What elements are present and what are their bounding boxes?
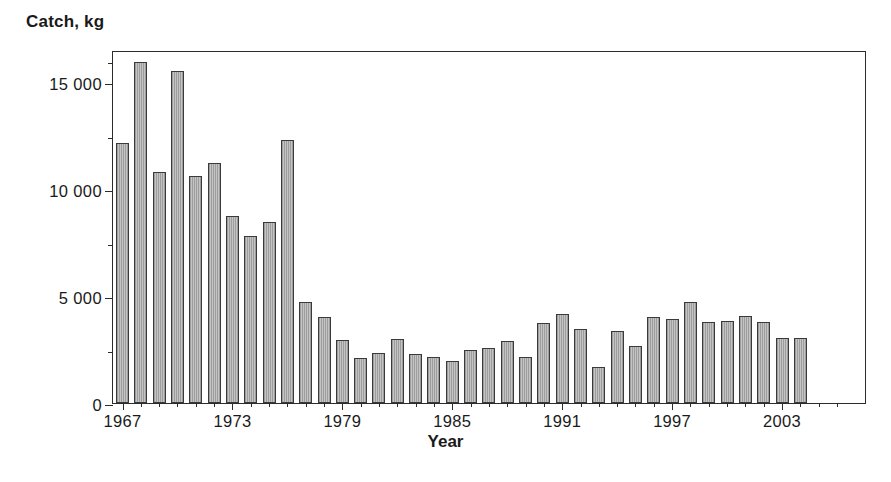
y-tick-minor-16000: [108, 63, 113, 64]
x-tick-label-1979: 1979: [323, 412, 361, 431]
x-tick-1991: [562, 403, 563, 410]
x-tick-2005: [819, 403, 820, 407]
bar-1987: [482, 348, 495, 403]
bar-1986: [464, 350, 477, 403]
x-tick-2003: [782, 403, 783, 410]
bar-1973: [226, 216, 239, 403]
bar-2002: [757, 322, 770, 403]
x-tick-1986: [471, 403, 472, 407]
x-tick-2004: [800, 403, 801, 407]
bar-1990: [537, 323, 550, 403]
bar-1978: [318, 317, 331, 403]
x-tick-1968: [141, 403, 142, 407]
bar-1974: [244, 236, 257, 403]
x-tick-1996: [654, 403, 655, 407]
x-tick-2002: [764, 403, 765, 407]
bar-2003: [776, 338, 789, 403]
x-tick-1990: [544, 403, 545, 407]
x-tick-label-1973: 1973: [213, 412, 251, 431]
x-tick-1976: [287, 403, 288, 407]
x-tick-1994: [617, 403, 618, 407]
bar-1970: [171, 71, 184, 403]
bar-1997: [666, 319, 679, 404]
bar-1999: [702, 322, 715, 403]
bar-1998: [684, 302, 697, 403]
x-tick-1984: [434, 403, 435, 407]
x-tick-1977: [306, 403, 307, 407]
x-tick-1967: [123, 403, 124, 410]
y-tick-15000: [105, 84, 113, 85]
bar-1976: [281, 140, 294, 403]
bar-1996: [647, 317, 660, 403]
y-axis-title: Catch, kg: [26, 12, 104, 32]
x-tick-label-1985: 1985: [433, 412, 471, 431]
bar-1981: [372, 353, 385, 403]
x-tick-1989: [526, 403, 527, 407]
x-tick-1981: [379, 403, 380, 407]
x-tick-label-1991: 1991: [543, 412, 581, 431]
bar-1972: [208, 163, 221, 403]
x-tick-1988: [507, 403, 508, 407]
bar-1985: [446, 361, 459, 403]
x-tick-1995: [635, 403, 636, 407]
x-tick-1987: [489, 403, 490, 407]
bar-1982: [391, 339, 404, 403]
bar-2000: [721, 321, 734, 403]
x-tick-1997: [672, 403, 673, 410]
x-tick-1985: [452, 403, 453, 410]
y-tick-10000: [105, 191, 113, 192]
x-tick-label-2003: 2003: [763, 412, 801, 431]
bar-1993: [592, 367, 605, 403]
x-tick-1969: [159, 403, 160, 407]
x-tick-1973: [232, 403, 233, 410]
y-tick-label-15000: 15 000: [49, 75, 102, 94]
bar-1983: [409, 354, 422, 403]
catch-bar-chart-figure: Catch, kg 05 00010 00015 000 19671973197…: [0, 0, 891, 482]
plot-area: 05 00010 00015 000 196719731979198519911…: [112, 51, 866, 404]
x-tick-1970: [177, 403, 178, 407]
x-tick-2000: [727, 403, 728, 407]
bar-1971: [189, 176, 202, 403]
bar-2001: [739, 316, 752, 403]
bar-1989: [519, 357, 532, 403]
y-tick-label-10000: 10 000: [49, 182, 102, 201]
x-tick-1983: [416, 403, 417, 407]
y-tick-label-0: 0: [92, 396, 102, 415]
x-tick-1978: [324, 403, 325, 407]
x-tick-1972: [214, 403, 215, 407]
bar-1992: [574, 329, 587, 403]
bar-1979: [336, 340, 349, 403]
bar-1967: [116, 143, 129, 403]
x-tick-1980: [361, 403, 362, 407]
x-tick-1971: [196, 403, 197, 407]
bars-layer: [113, 52, 865, 403]
x-tick-1982: [397, 403, 398, 407]
y-tick-minor-7500: [108, 245, 113, 246]
x-axis-title: Year: [0, 432, 891, 452]
x-tick-2001: [745, 403, 746, 407]
x-tick-label-1997: 1997: [653, 412, 691, 431]
x-tick-1992: [581, 403, 582, 407]
bar-1991: [556, 314, 569, 403]
x-tick-1975: [269, 403, 270, 407]
bar-1969: [153, 172, 166, 403]
y-tick-minor-12500: [108, 138, 113, 139]
x-tick-1974: [251, 403, 252, 407]
bar-1975: [263, 222, 276, 403]
x-tick-1993: [599, 403, 600, 407]
bar-1988: [501, 341, 514, 403]
bar-1968: [134, 62, 147, 403]
y-tick-0: [105, 405, 113, 406]
x-tick-1998: [690, 403, 691, 407]
x-tick-1999: [709, 403, 710, 407]
y-tick-minor-2500: [108, 352, 113, 353]
bar-1995: [629, 346, 642, 403]
y-tick-label-5000: 5 000: [59, 289, 102, 308]
y-tick-5000: [105, 298, 113, 299]
x-tick-label-1967: 1967: [104, 412, 142, 431]
bar-2004: [794, 338, 807, 403]
bar-1980: [354, 358, 367, 403]
x-tick-1979: [342, 403, 343, 410]
bar-1977: [299, 302, 312, 403]
x-tick-2006: [837, 403, 838, 407]
